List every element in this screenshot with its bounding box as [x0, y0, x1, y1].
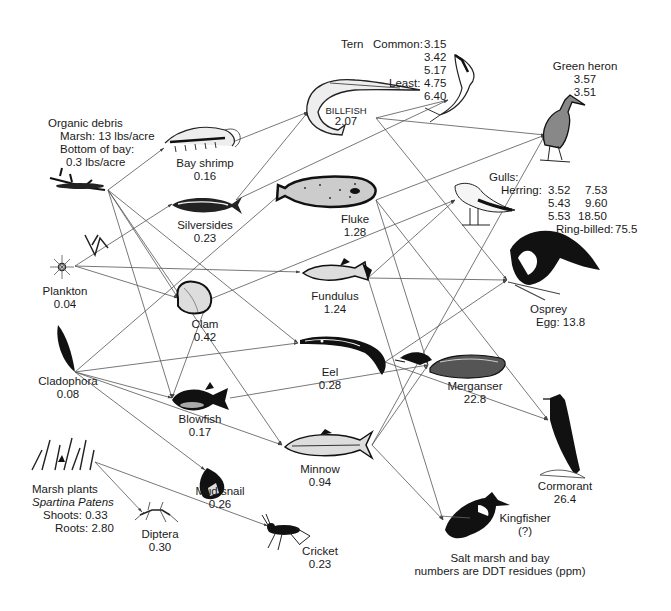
- merganser-value: 22.8: [440, 393, 510, 406]
- caption-line-2: numbers are DDT residues (ppm): [410, 565, 590, 578]
- cladophora-value: 0.08: [28, 388, 108, 401]
- cricket-label: Cricket: [290, 545, 350, 558]
- caption-line-1: Salt marsh and bay: [410, 552, 590, 565]
- marsh-plants-shoots: Shoots: 0.33: [43, 509, 108, 522]
- fundulus-label: Fundulus: [300, 290, 370, 303]
- grass-icon: [32, 438, 94, 470]
- minnow-fish-icon: [285, 429, 372, 458]
- blowfish-value: 0.17: [165, 426, 235, 439]
- osprey-value: Egg: 13.8: [536, 316, 585, 329]
- green-heron-value: 3.51: [545, 86, 625, 99]
- green-heron-label: Green heron: [545, 60, 625, 73]
- cricket-value: 0.23: [290, 558, 350, 571]
- cormorant-label: Cormorant: [525, 480, 605, 493]
- gulls-herring-value: 5.43: [548, 197, 570, 210]
- edge-eel-to-osprey: [385, 280, 507, 362]
- heron-icon: [540, 95, 585, 162]
- gulls-herring-value: 7.53: [585, 184, 607, 197]
- edge-plankton-to-fundulus: [75, 266, 300, 272]
- bay-shrimp-label: Bay shrimp: [170, 157, 240, 170]
- silversides-fish-icon: [172, 197, 242, 214]
- edge-fluke-to-merganser: [376, 200, 428, 365]
- fly-icon: [135, 502, 178, 522]
- edge-minnow-to-kingfisher: [372, 445, 443, 520]
- silversides-value: 0.23: [170, 232, 240, 245]
- bay-shrimp-value: 0.16: [170, 170, 240, 183]
- clam-value: 0.42: [180, 331, 230, 344]
- organic-debris-marsh: Marsh: 13 lbs/acre: [60, 130, 155, 143]
- organic-debris-bay-value: 0.3 lbs/acre: [66, 156, 125, 169]
- organic-debris-title: Organic debris: [48, 117, 123, 130]
- tern-least-value: 4.75: [424, 77, 446, 90]
- gulls-ring-billed-label: Ring-billed:: [556, 223, 614, 236]
- eel-value: 0.28: [310, 379, 350, 392]
- green-heron-value: 3.57: [545, 73, 625, 86]
- food-web-diagram: Organic debris Marsh: 13 lbs/acre Bottom…: [0, 0, 671, 611]
- gulls-herring-value: 3.52: [548, 184, 570, 197]
- plankton-value: 0.04: [35, 298, 95, 311]
- marsh-plants-species: Spartina Patens: [32, 496, 114, 509]
- algae-icon: [57, 325, 75, 372]
- mud-snail-value: 0.26: [180, 498, 260, 511]
- blowfish-label: Blowfish: [165, 413, 235, 426]
- diptera-label: Diptera: [130, 528, 190, 541]
- tern-least-label: Least:: [389, 77, 420, 90]
- tern-common-value: 3.15: [424, 38, 446, 51]
- billfish-value: 2.07: [316, 115, 376, 128]
- marsh-plants-roots: Roots: 2.80: [55, 522, 114, 535]
- edge-minnow-to-merganser: [372, 365, 428, 445]
- gulls-herring-value: 9.60: [585, 197, 607, 210]
- edge-billfish-to-green-heron: [376, 118, 545, 135]
- plankton-label: Plankton: [35, 285, 95, 298]
- gulls-ring-billed-value: 75.5: [615, 223, 637, 236]
- gulls-label: Gulls:: [489, 171, 518, 184]
- clam-icon: [177, 282, 211, 314]
- cladophora-label: Cladophora: [28, 375, 108, 388]
- minnow-label: Minnow: [285, 463, 355, 476]
- edge-clam-to-blowfish: [172, 300, 208, 398]
- tern-label: Tern: [341, 38, 363, 51]
- debris-icon: [50, 168, 105, 190]
- osprey-icon: [508, 231, 600, 300]
- edge-fundulus-to-kingfisher: [368, 278, 443, 520]
- cormorant-value: 26.4: [525, 493, 605, 506]
- merganser-label: Merganser: [440, 380, 510, 393]
- fundulus-value: 1.24: [300, 303, 370, 316]
- edge-organic-debris-to-clam: [108, 190, 178, 298]
- mud-snail-label: Mud snail: [180, 485, 260, 498]
- gulls-herring-label: Herring:: [501, 184, 542, 197]
- fluke-value: 1.28: [330, 226, 380, 239]
- gulls-herring-value: 5.53: [548, 210, 570, 223]
- clam-label: Clam: [180, 318, 230, 331]
- tern-common-label: Common:: [373, 38, 423, 51]
- marsh-plants-label: Marsh plants: [32, 483, 98, 496]
- tern-common-value: 5.17: [424, 64, 446, 77]
- edge-bay-shrimp-to-billfish: [230, 112, 308, 143]
- blowfish-icon: [172, 382, 229, 410]
- minnow-value: 0.94: [285, 476, 355, 489]
- flounder-icon: [277, 176, 376, 207]
- osprey-label: Osprey: [530, 303, 567, 316]
- tern-common-value: 3.42: [424, 51, 446, 64]
- plankton-icon: [50, 235, 108, 279]
- organic-debris-bay: Bottom of bay:: [60, 143, 134, 156]
- gulls-herring-value: 18.50: [578, 210, 607, 223]
- edge-fundulus-to-gulls: [368, 200, 455, 278]
- edge-cladophora-to-fluke: [75, 190, 285, 372]
- fundulus-fish-icon: [303, 258, 372, 280]
- tern-least-value: 6.40: [424, 90, 446, 103]
- eel-label: Eel: [310, 366, 350, 379]
- cormorant-icon: [540, 394, 585, 478]
- diptera-value: 0.30: [130, 541, 190, 554]
- kingfisher-label: Kingfisher: [490, 512, 560, 525]
- fluke-label: Fluke: [330, 213, 380, 226]
- kingfisher-value: (?): [490, 525, 560, 538]
- silversides-label: Silversides: [170, 219, 240, 232]
- shrimp-icon: [165, 127, 240, 152]
